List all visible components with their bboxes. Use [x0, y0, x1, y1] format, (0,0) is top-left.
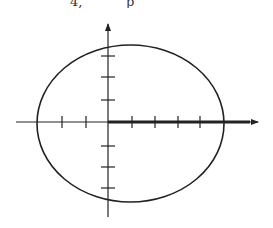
ellipse-diagram — [0, 0, 273, 228]
